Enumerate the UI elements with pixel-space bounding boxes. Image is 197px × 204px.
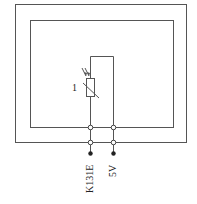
terminal-label-k131e: K131E [85,165,95,193]
schematic-canvas [0,0,197,204]
inner-enclosure [31,21,174,128]
connection-dot-right [111,151,115,155]
terminal-outer-right [111,140,116,145]
terminal-label-5v: 5V [108,165,118,177]
terminal-inner-left [88,125,93,130]
terminal-inner-right [111,125,116,130]
terminal-outer-left [88,140,93,145]
variable-arrow-line [83,83,99,98]
connection-dot-left [88,151,92,155]
component-label: 1 [72,83,77,93]
outer-enclosure [16,5,187,143]
